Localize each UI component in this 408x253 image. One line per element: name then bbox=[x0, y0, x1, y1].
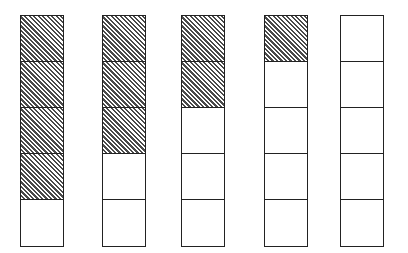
empty-cell bbox=[265, 200, 307, 246]
empty-cell bbox=[182, 200, 224, 246]
shaded-cell bbox=[21, 62, 63, 108]
empty-cell bbox=[103, 200, 145, 246]
empty-cell bbox=[21, 200, 63, 246]
shaded-cell bbox=[182, 62, 224, 108]
empty-cell bbox=[341, 62, 383, 108]
fraction-bar-4 bbox=[264, 15, 308, 247]
fraction-bar-2 bbox=[102, 15, 146, 247]
shaded-cell bbox=[21, 154, 63, 200]
shaded-cell bbox=[103, 62, 145, 108]
shaded-cell bbox=[21, 108, 63, 154]
empty-cell bbox=[265, 154, 307, 200]
fraction-bar-1 bbox=[20, 15, 64, 247]
empty-cell bbox=[341, 16, 383, 62]
empty-cell bbox=[182, 108, 224, 154]
empty-cell bbox=[341, 154, 383, 200]
empty-cell bbox=[265, 108, 307, 154]
empty-cell bbox=[341, 108, 383, 154]
shaded-cell bbox=[103, 16, 145, 62]
empty-cell bbox=[103, 154, 145, 200]
fraction-bar-3 bbox=[181, 15, 225, 247]
shaded-cell bbox=[265, 16, 307, 62]
shaded-cell bbox=[103, 108, 145, 154]
empty-cell bbox=[182, 154, 224, 200]
fraction-bar-5 bbox=[340, 15, 384, 247]
shaded-cell bbox=[182, 16, 224, 62]
empty-cell bbox=[341, 200, 383, 246]
shaded-cell bbox=[21, 16, 63, 62]
empty-cell bbox=[265, 62, 307, 108]
